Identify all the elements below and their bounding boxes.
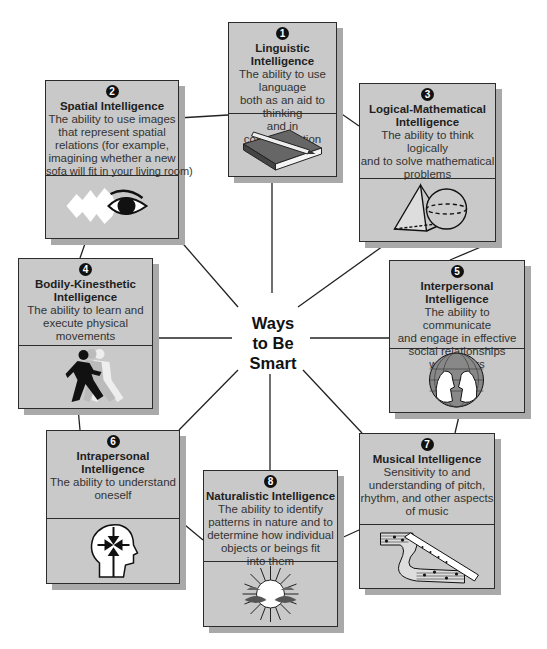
card-intrapersonal: 6 Intrapersonal Intelligence The ability…: [46, 430, 180, 584]
card-title: Interpersonal Intelligence: [390, 280, 524, 306]
connector-2: [178, 238, 238, 307]
card-description: The ability to understand oneself: [47, 476, 179, 502]
card-bodily-kinesthetic: 4 Bodily-Kinesthetic Intelligence The ab…: [18, 258, 153, 409]
center-line-1: Ways: [238, 313, 308, 333]
head-arrows-icon: [47, 518, 179, 583]
runner-icon: [19, 345, 152, 408]
number-badge: 8: [264, 475, 277, 488]
card-title: Intrapersonal Intelligence: [47, 450, 179, 476]
card-title: Linguistic Intelligence: [229, 42, 336, 68]
book-pencil-icon: [229, 113, 336, 176]
number-badge: 6: [107, 435, 120, 448]
card-linguistic: 1 Linguistic Intelligence The ability to…: [228, 22, 337, 177]
card-title: Bodily-Kinesthetic Intelligence: [19, 278, 152, 304]
center-line-2: to Be: [238, 333, 308, 353]
card-title: Spatial Intelligence: [46, 100, 178, 113]
number-badge: 5: [451, 265, 464, 278]
pyramid-sphere-icon: [360, 178, 495, 241]
recorder-music-icon: [360, 524, 494, 588]
connector-6: [179, 370, 238, 430]
card-description: The ability to use images that represent…: [46, 113, 178, 178]
number-badge: 1: [276, 27, 289, 40]
card-title: Logical-Mathematical Intelligence: [360, 103, 495, 129]
globe-faces-icon: [390, 348, 524, 412]
connector-7: [303, 370, 362, 433]
sun-leaves-icon: [204, 561, 337, 626]
card-title: Musical Intelligence: [360, 453, 494, 466]
center-label: Ways to Be Smart: [238, 313, 308, 373]
card-title: Naturalistic Intelligence: [204, 490, 337, 503]
center-line-3: Smart: [238, 353, 308, 373]
card-description: The ability to learn and execute physica…: [19, 304, 152, 343]
number-badge: 2: [106, 85, 119, 98]
number-badge: 3: [421, 88, 434, 101]
card-description: The ability to think logically and to so…: [360, 129, 495, 181]
card-logical-mathematical: 3 Logical-Mathematical Intelligence The …: [359, 83, 496, 242]
number-badge: 4: [79, 263, 92, 276]
card-spatial: 2 Spatial Intelligence The ability to us…: [45, 80, 179, 239]
card-naturalistic: 8 Naturalistic Intelligence The ability …: [203, 470, 338, 627]
connector-3: [298, 241, 390, 307]
number-badge: 7: [421, 438, 434, 451]
eye-icon: [46, 175, 178, 238]
card-description: The ability to identify patterns in natu…: [204, 503, 337, 568]
card-interpersonal: 5 Interpersonal Intelligence The ability…: [389, 260, 525, 413]
card-description: Sensitivity to and understanding of pitc…: [360, 466, 494, 518]
card-musical: 7 Musical Intelligence Sensitivity to an…: [359, 433, 495, 589]
